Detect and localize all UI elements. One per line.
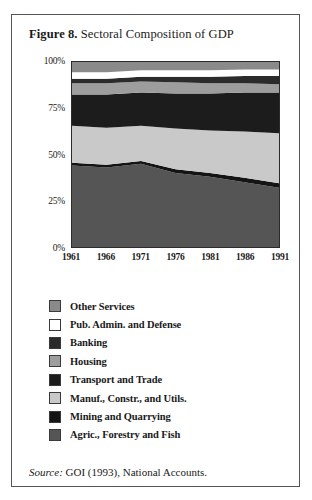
legend-swatch [49, 374, 61, 386]
x-axis-tick-label: 1991 [271, 252, 289, 262]
legend-swatch [49, 337, 61, 349]
figure-title: Figure 8. Sectoral Composition of GDP [29, 27, 234, 42]
legend-item-label: Manuf., Constr., and Utils. [70, 393, 187, 404]
y-axis-tick-label: 50% [48, 150, 65, 160]
x-axis-tick-label: 1961 [62, 252, 80, 262]
figure-title-text: Sectoral Composition of GDP [78, 27, 234, 41]
legend-item: Agric., Forestry and Fish [49, 426, 279, 444]
legend-item-label: Transport and Trade [70, 374, 162, 385]
y-axis-tick-label: 75% [48, 103, 65, 113]
legend-item: Manuf., Constr., and Utils. [49, 389, 279, 407]
legend-item-label: Banking [70, 337, 107, 348]
legend-item: Banking [49, 334, 279, 352]
legend-swatch [49, 300, 61, 312]
x-axis-tick-label: 1966 [97, 252, 115, 262]
legend-item: Other Services [49, 297, 279, 315]
legend-item-label: Agric., Forestry and Fish [70, 429, 180, 440]
legend-item-label: Pub. Admin. and Defense [70, 319, 181, 330]
legend-item: Housing [49, 352, 279, 370]
source-text: GOI (1993), National Accounts. [63, 466, 207, 478]
x-axis-tick-label: 1976 [166, 252, 184, 262]
plot-area [71, 61, 280, 248]
x-axis: 1961196619711976198119861991 [71, 252, 280, 266]
legend-swatch [49, 355, 61, 367]
legend-item: Transport and Trade [49, 371, 279, 389]
legend-item: Mining and Quarrying [49, 407, 279, 425]
legend-swatch [49, 411, 61, 423]
legend-item-label: Other Services [70, 301, 135, 312]
figure-number: Figure 8. [29, 27, 78, 41]
y-axis-tick-label: 25% [48, 196, 65, 206]
legend-swatch [49, 429, 61, 441]
source-note: Source: GOI (1993), National Accounts. [29, 466, 207, 478]
legend-item-label: Housing [70, 356, 107, 367]
x-axis-tick-label: 1971 [132, 252, 150, 262]
legend-item: Pub. Admin. and Defense [49, 315, 279, 333]
figure-box: Figure 8. Sectoral Composition of GDP 0%… [11, 14, 300, 487]
legend-swatch [49, 319, 61, 331]
x-axis-tick-label: 1981 [201, 252, 219, 262]
area-series-group [72, 62, 279, 247]
source-label: Source: [29, 466, 63, 478]
y-axis-tick-label: 100% [44, 56, 65, 66]
stacked-area-chart: 0%25%50%75%100% 196119661971197619811986… [26, 55, 286, 277]
area-band [72, 93, 279, 134]
chart-legend: Other ServicesPub. Admin. and DefenseBan… [49, 297, 279, 444]
x-axis-tick-label: 1986 [236, 252, 254, 262]
legend-item-label: Mining and Quarrying [70, 411, 171, 422]
legend-swatch [49, 392, 61, 404]
